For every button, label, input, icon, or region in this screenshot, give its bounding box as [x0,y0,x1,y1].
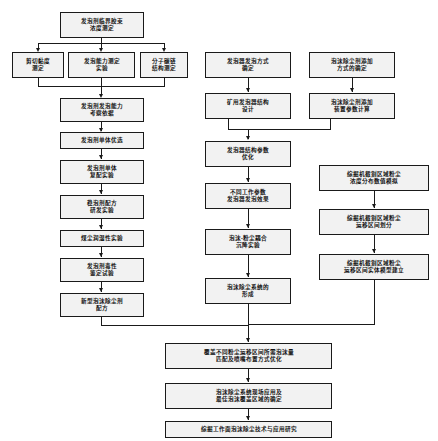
node-foaming-ability-experiment: 发泡能力测定 实验 [68,52,135,78]
node-line-1: 综掘机截割区域粉尘 [322,215,426,222]
node-line-1: 覆盖不同粉尘运移区间所需泡沫量 [168,349,329,356]
node-new-foam-dust-suppressant-formula: 新型泡沫除尘剂 配方 [60,293,144,317]
arrow-to-n17 [246,178,250,182]
node-line-2: 浓度测定 [63,25,141,32]
node-line-2: 浓度分布数值模拟 [322,178,426,185]
node-line-1: 剪切黏度 [15,58,61,65]
arrow-to-n25 [246,416,250,420]
node-dust-concentration-numerical-simulation: 综掘机截割区域粉尘 浓度分布数值模拟 [319,165,429,191]
arrow-to-n11 [99,288,103,292]
arrow-to-n18 [246,224,250,228]
node-molecular-carbon-chain-structure: 分子碳链 结构测定 [140,52,188,78]
node-line-2: 发泡器发泡效果 [208,196,288,203]
node-line-1: 泡沫除尘剂添加 [312,58,392,65]
edge-merge-to-n16 [228,129,331,130]
node-dust-suppressant-device-parameters: 泡沫除尘剂添加 装置参数计算 [309,93,395,119]
node-line-2: 配方 [63,305,141,312]
arrow-to-n08 [99,190,103,194]
node-line-2: 结构测定 [143,65,185,72]
arrow-to-n13 [246,88,250,92]
node-line-2: 最佳泡沫覆盖区域的确定 [168,396,329,403]
node-coal-dust-wettability-experiment: 煤尘润湿性实验 [60,230,144,247]
node-line-2: 运移区间划分 [322,222,426,229]
node-line-2: 复配实验 [63,172,141,179]
node-line-1: 发泡剂单体优选 [63,137,141,144]
node-monomer-compounding-experiment: 发泡剂单体 复配实验 [60,160,144,184]
node-dust-migration-zone-physical-model: 综掘机截割区域粉尘 运移区间实体模型建立 [319,254,429,280]
node-foam-generator-foaming-mode: 发泡器发泡方式 确定 [205,52,291,78]
node-line-1: 分子碳链 [143,58,185,65]
node-foam-dust-coupling-settlement-experiment: 泡沫-粉尘耦合 沉降实验 [205,229,291,255]
node-line-1: 泡沫除尘系统现场应用及 [168,389,329,396]
arrow-to-n09 [99,225,103,229]
node-line-1: 泡沫除尘系统的 [208,284,288,291]
node-line-1: 综掘机截割区域粉尘 [322,171,426,178]
node-field-application-optimal-coverage: 泡沫除尘系统现场应用及 最佳泡沫覆盖区域的确定 [165,383,332,409]
node-line-1: 发泡剂发泡能力 [63,103,141,110]
node-line-1: 煤尘润湿性实验 [63,235,141,242]
node-line-1: 发泡剂临界胶束 [63,18,141,25]
edge-n22-to-stem [248,324,375,325]
node-line-2: 测定 [15,65,61,72]
node-foam-stabilizer-formula-rd: 稳泡剂配方 研发实验 [60,195,144,219]
arrow-to-n10 [99,253,103,257]
arrow-to-n07 [99,155,103,159]
node-foaming-ability-criteria: 发泡剂发泡能力 考察依据 [60,98,144,122]
node-foam-dust-removal-system-formation: 泡沫除尘系统的 形成 [205,278,291,304]
node-foam-volume-matching-nozzle-optimization: 覆盖不同粉尘运移区间所需泡沫量 匹配及喷嘴布置方式优化 [165,343,332,369]
node-line-1: 泡沫-粉尘耦合 [208,235,288,242]
node-line-2: 确定 [208,65,288,72]
node-line-2: 考察依据 [63,110,141,117]
node-foaming-agent-monomer-selection: 发泡剂单体优选 [60,132,144,149]
node-line-2: 鉴定试验 [63,270,141,277]
arrow-to-n21 [372,204,376,208]
node-line-1: 泡沫除尘剂添加 [312,99,392,106]
arrow-to-n15 [350,88,354,92]
edge-n11-to-stem [101,325,249,326]
node-mine-foam-generator-structure-design: 矿用发泡器结构 设计 [205,93,291,119]
node-line-1: 不同工作参数 [208,189,288,196]
node-foaming-agent-toxicity-test: 发泡剂毒性 鉴定试验 [60,258,144,282]
node-line-2: 方式的确定 [312,65,392,72]
node-line-2: 设计 [208,106,288,113]
edge-n19-to-n23 [248,304,249,342]
arrow-to-n24 [246,378,250,382]
node-line-2: 运移区间实体模型建立 [322,267,426,274]
node-line-2: 匹配及喷嘴布置方式优化 [168,356,329,363]
arrow-to-n16 [246,136,250,140]
edge-n22-down [374,280,375,325]
node-line-2: 研发实验 [63,207,141,214]
node-line-2: 优化 [208,154,288,161]
node-line-1: 发泡器结构参数 [208,147,288,154]
node-line-1: 发泡器发泡方式 [208,58,288,65]
edge-fanout-top [38,43,165,44]
node-line-2: 实验 [71,65,132,72]
node-foaming-effect-working-parameters: 不同工作参数 发泡器发泡效果 [205,183,291,209]
node-line-1: 新型泡沫除尘剂 [63,298,141,305]
node-line-2: 形成 [208,291,288,298]
node-line-1: 发泡剂单体 [63,165,141,172]
node-line-2: 装置参数计算 [312,106,392,113]
node-shear-viscosity-measurement: 剪切黏度 测定 [12,52,64,78]
node-line-1: 发泡能力测定 [71,58,132,65]
arrow-to-n22 [372,249,376,253]
node-final-research-topic: 综掘工作面泡沫除尘技术与应用研究 [165,421,332,438]
node-line-1: 综掘工作面泡沫除尘技术与应用研究 [168,426,329,433]
node-critical-micelle-concentration: 发泡剂临界胶束 浓度测定 [60,12,144,38]
arrow-to-n23 [246,338,250,342]
node-dust-migration-zone-division: 综掘机截割区域粉尘 运移区间划分 [319,209,429,235]
node-dust-suppressant-addition-mode: 泡沫除尘剂添加 方式的确定 [309,52,395,78]
node-line-1: 综掘机截割区域粉尘 [322,260,426,267]
flowchart-canvas: 发泡剂临界胶束 浓度测定 剪切黏度 测定 发泡能力测定 实验 分子碳链 结构测定 [0,0,438,441]
node-foam-generator-parameter-optimization: 发泡器结构参数 优化 [205,141,291,167]
node-line-2: 沉降实验 [208,242,288,249]
arrow-to-n19 [246,273,250,277]
node-line-1: 发泡剂毒性 [63,263,141,270]
node-line-1: 矿用发泡器结构 [208,99,288,106]
node-line-1: 稳泡剂配方 [63,200,141,207]
